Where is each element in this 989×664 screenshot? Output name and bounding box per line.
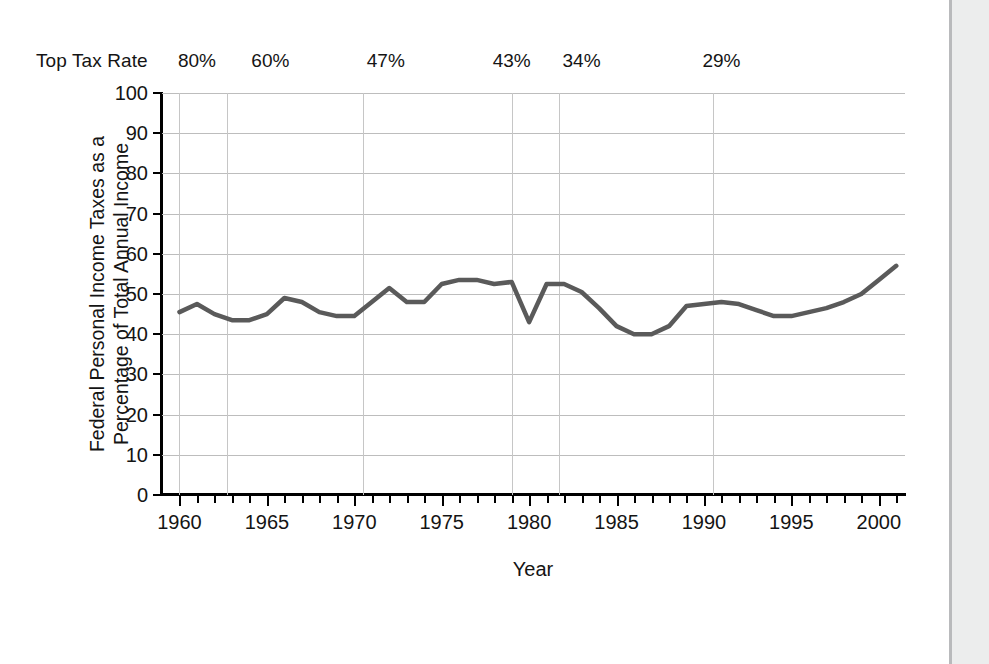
x-tick-1994: [774, 495, 776, 503]
x-tick-1965: [267, 495, 269, 506]
x-tick-1998: [844, 495, 846, 503]
x-tick-1982: [564, 495, 566, 503]
x-tick-1961: [197, 495, 199, 503]
y-tick-label-0: 0: [137, 485, 148, 505]
x-tick-1976: [459, 495, 461, 503]
x-tick-1997: [826, 495, 828, 503]
top-tax-rate-value-2: 47%: [367, 50, 405, 72]
y-tick-10: [153, 454, 162, 456]
x-tick-1974: [424, 495, 426, 503]
x-tick-label-1960: 1960: [157, 511, 202, 534]
chart-figure: Top Tax Rate 80%60%47%43%34%29% 01020304…: [0, 0, 949, 664]
x-tick-1993: [756, 495, 758, 503]
x-tick-1978: [494, 495, 496, 503]
top-tax-rate-value-5: 29%: [702, 50, 740, 72]
x-tick-1988: [669, 495, 671, 503]
y-tick-40: [153, 333, 162, 335]
x-tick-1987: [652, 495, 654, 503]
y-tick-50: [153, 293, 162, 295]
plot-area: 0102030405060708090100 19601965197019751…: [162, 93, 905, 495]
y-tick-80: [153, 172, 162, 174]
x-tick-label-1970: 1970: [332, 511, 377, 534]
x-tick-1984: [599, 495, 601, 503]
x-tick-label-1980: 1980: [507, 511, 552, 534]
top-tax-rate-value-1: 60%: [251, 50, 289, 72]
x-tick-1969: [337, 495, 339, 503]
x-tick-1970: [354, 495, 356, 506]
x-tick-label-1995: 1995: [769, 511, 814, 534]
x-tick-2001: [896, 495, 898, 503]
x-tick-1960: [179, 495, 181, 506]
x-tick-1990: [704, 495, 706, 506]
y-tick-90: [153, 132, 162, 134]
x-tick-1967: [302, 495, 304, 503]
x-tick-1996: [809, 495, 811, 503]
y-tick-20: [153, 414, 162, 416]
x-tick-1981: [547, 495, 549, 503]
x-tick-1985: [617, 495, 619, 506]
x-tick-1966: [284, 495, 286, 503]
y-tick-0: [153, 494, 162, 496]
x-tick-1979: [512, 495, 514, 503]
page-gutter-margin: [952, 0, 989, 664]
x-tick-1999: [861, 495, 863, 503]
data-line-series: [162, 93, 905, 495]
y-axis-title-line-2: Percentage of Total Annual Income: [110, 136, 134, 452]
x-tick-label-1975: 1975: [419, 511, 464, 534]
x-tick-1964: [249, 495, 251, 503]
tax-share-line: [179, 266, 896, 334]
x-tick-1992: [739, 495, 741, 503]
x-tick-1971: [372, 495, 374, 503]
x-tick-label-1965: 1965: [245, 511, 290, 534]
top-tax-rate-caption: Top Tax Rate: [36, 50, 148, 72]
x-tick-label-1990: 1990: [682, 511, 727, 534]
x-axis-title: Year: [513, 558, 553, 581]
y-tick-60: [153, 253, 162, 255]
top-tax-rate-value-4: 34%: [563, 50, 601, 72]
y-tick-label-100: 100: [115, 83, 148, 103]
x-tick-label-2000: 2000: [857, 511, 902, 534]
x-tick-1973: [407, 495, 409, 503]
y-axis-title-line-1: Federal Personal Income Taxes as a: [86, 136, 110, 452]
y-tick-70: [153, 213, 162, 215]
x-tick-1980: [529, 495, 531, 506]
y-axis-title: Federal Personal Income Taxes as aPercen…: [86, 136, 134, 452]
top-tax-rate-value-3: 43%: [493, 50, 531, 72]
x-tick-1991: [721, 495, 723, 503]
y-tick-30: [153, 373, 162, 375]
x-tick-label-1985: 1985: [594, 511, 639, 534]
x-tick-1963: [232, 495, 234, 503]
x-tick-1972: [389, 495, 391, 503]
x-tick-2000: [879, 495, 881, 506]
x-tick-1962: [214, 495, 216, 503]
x-tick-1975: [442, 495, 444, 506]
x-tick-1983: [582, 495, 584, 503]
y-tick-100: [153, 92, 162, 94]
x-tick-1977: [477, 495, 479, 503]
x-tick-1995: [791, 495, 793, 506]
top-tax-rate-value-0: 80%: [178, 50, 216, 72]
x-tick-1986: [634, 495, 636, 503]
x-tick-1968: [319, 495, 321, 503]
x-tick-1989: [686, 495, 688, 503]
